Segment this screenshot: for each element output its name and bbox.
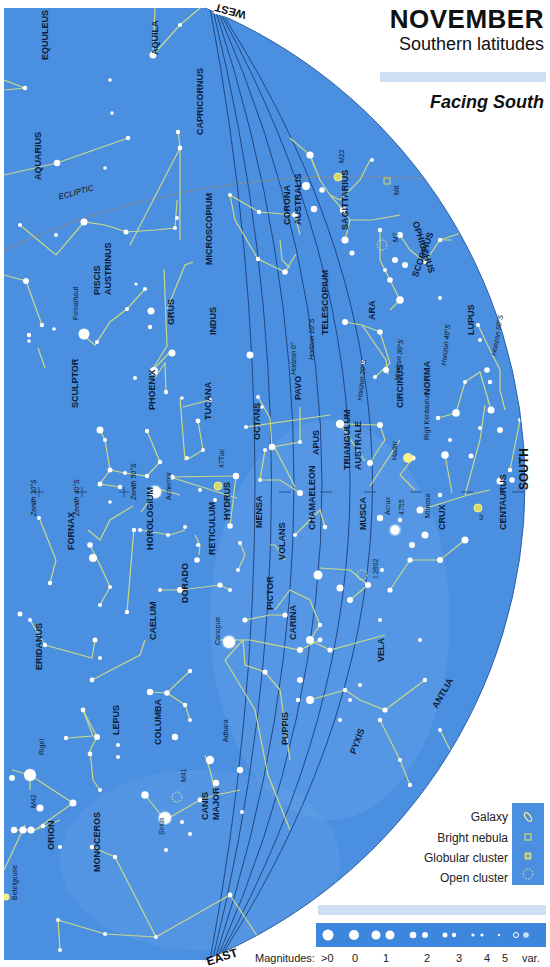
constellation-label: AQUARIUS bbox=[33, 132, 43, 180]
magnitude-tick: 0 bbox=[352, 952, 358, 964]
object-label: Adhara bbox=[222, 719, 229, 742]
constellation-label: APUS bbox=[311, 430, 321, 455]
magnitude-tick: 4 bbox=[484, 952, 490, 964]
constellation-label: AQUILA bbox=[150, 21, 160, 56]
constellation-label: INDUS bbox=[208, 307, 218, 335]
divider-band bbox=[318, 905, 546, 915]
magnitude-tick: 5 bbox=[502, 952, 508, 964]
constellation-label: CRUX bbox=[437, 504, 447, 530]
magnitude-scale bbox=[316, 923, 546, 947]
zenith-label: Zenith 30°S bbox=[30, 479, 37, 516]
constellation-label: FORNAX bbox=[66, 512, 76, 550]
constellation-label: HYDRUS bbox=[222, 482, 232, 520]
constellation-label: CENTAURUS bbox=[498, 474, 508, 530]
constellation-label: CHAMAELEON bbox=[307, 466, 317, 531]
facing-direction: Facing South bbox=[430, 92, 544, 113]
constellation-label: CARINA bbox=[288, 605, 298, 640]
constellation-label: OCTANS bbox=[252, 403, 262, 440]
star-chart bbox=[0, 0, 550, 967]
legend-icon-panel bbox=[512, 803, 544, 885]
constellation-label: MENSA bbox=[254, 495, 264, 528]
constellation-label: CAELUM bbox=[148, 602, 158, 641]
constellation-label: AUSTRINUS bbox=[103, 242, 113, 295]
constellation-label: ARA bbox=[367, 301, 377, 321]
magnitude-tick: 2 bbox=[424, 952, 430, 964]
constellation-label: VELA bbox=[376, 638, 386, 662]
constellation-label: CORONA bbox=[282, 185, 292, 225]
constellation-label: ERIDANUS bbox=[34, 623, 44, 670]
constellation-label: PAVO bbox=[293, 376, 303, 400]
constellation-label: TELESCOPIUM bbox=[320, 270, 330, 335]
constellation-label: TUCANA bbox=[203, 382, 213, 420]
constellation-label: MUSCA bbox=[358, 497, 368, 530]
constellation-label: EQUULEUS bbox=[40, 10, 50, 60]
constellation-label: MAJOR bbox=[211, 787, 221, 820]
constellation-label: COLUMBA bbox=[153, 699, 163, 745]
object-label: 47Tuc bbox=[218, 449, 225, 468]
constellation-label: PHOENIX bbox=[147, 369, 157, 410]
object-label: M7 bbox=[392, 232, 399, 242]
constellation-label: NORMA bbox=[422, 361, 432, 395]
south-label: SOUTH bbox=[517, 448, 531, 490]
divider-band bbox=[380, 72, 546, 82]
constellation-label: PUPPIS bbox=[280, 712, 290, 745]
constellation-label: SAGITTARIUS bbox=[340, 170, 350, 230]
magnitudes-label: Magnitudes: bbox=[255, 952, 315, 964]
object-label: Rigel bbox=[38, 739, 45, 755]
object-label: Rigil Kentaurus bbox=[423, 393, 430, 440]
globular-cluster-icon bbox=[474, 504, 482, 512]
constellation-label: MONOCEROS bbox=[92, 812, 102, 872]
constellation-label: RETICULUM bbox=[207, 502, 217, 555]
yellow-star bbox=[403, 453, 413, 463]
legend-bright-nebula: Bright nebula bbox=[437, 831, 508, 845]
zenith-label: Zenith 50°S bbox=[130, 463, 137, 500]
object-label: M41 bbox=[180, 768, 187, 782]
constellation-label: DORADO bbox=[180, 563, 190, 603]
object-label: Mimosa bbox=[424, 493, 431, 518]
object-label: Betelgeuse bbox=[11, 865, 18, 900]
open-cluster-icon bbox=[523, 869, 533, 879]
constellation-label: ORION bbox=[46, 820, 56, 850]
constellation-label: LEPUS bbox=[111, 705, 121, 735]
nebula-icon bbox=[525, 834, 531, 840]
magnitude-tick: >0 bbox=[321, 952, 334, 964]
magnitude-tick: 3 bbox=[456, 952, 462, 964]
constellation-label: PICTOR bbox=[265, 576, 275, 610]
object-label: Achernar bbox=[165, 472, 172, 500]
zenith-label: Zenith 40°S bbox=[73, 479, 80, 516]
magnitude-tick: 1 bbox=[383, 952, 389, 964]
object-label: I.2602 bbox=[372, 559, 379, 578]
constellation-label: AUSTRALIS bbox=[293, 174, 303, 226]
constellation-label: MICROSCOPIUM bbox=[204, 193, 214, 265]
object-label: M42 bbox=[30, 794, 37, 808]
constellation-label: CANIS bbox=[200, 792, 210, 820]
object-label: Canopus bbox=[214, 617, 221, 645]
object-label: M22 bbox=[338, 149, 345, 163]
constellation-label: CAPRICORNUS bbox=[195, 68, 205, 135]
constellation-label: LUPUS bbox=[466, 304, 476, 335]
constellation-label: TRIANGULUM bbox=[342, 410, 352, 471]
horizon-label: Horizon 0° bbox=[290, 342, 297, 375]
globular-cluster-icon bbox=[214, 482, 222, 490]
object-label: Sirius bbox=[158, 817, 165, 835]
constellation-label: SCULPTOR bbox=[70, 359, 80, 408]
galaxy-icon bbox=[523, 811, 533, 822]
legend-open-cluster: Open cluster bbox=[440, 871, 508, 885]
object-label: 4755 bbox=[398, 499, 405, 515]
page-subtitle: Southern latitudes bbox=[399, 34, 544, 55]
object-label: M8 bbox=[393, 185, 400, 195]
page-title: NOVEMBER bbox=[390, 4, 544, 35]
horizon-label: Horizon 10°S bbox=[308, 319, 315, 360]
constellation-label: GRUS bbox=[166, 299, 176, 325]
object-label: Hadar bbox=[391, 441, 398, 460]
legend-globular-cluster: Globular cluster bbox=[424, 851, 508, 865]
constellation-label: HOROLOGIUM bbox=[145, 487, 155, 550]
magnitude-tick: var. bbox=[522, 952, 540, 964]
legend-galaxy: Galaxy bbox=[471, 810, 508, 824]
yellow-star bbox=[3, 894, 10, 901]
object-label: Fomalhaut bbox=[72, 287, 79, 320]
constellation-label: AUSTRALE bbox=[353, 421, 363, 470]
object-label: Acrux bbox=[384, 497, 391, 515]
constellation-label: PISCIS bbox=[92, 265, 102, 295]
object-label: ω bbox=[477, 515, 484, 520]
